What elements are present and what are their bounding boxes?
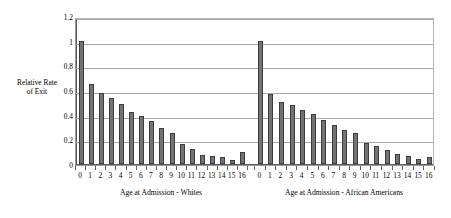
x-axis-tick-label: 2	[98, 170, 102, 181]
bar-slot	[308, 19, 319, 164]
x-axis-tick-label: 5	[310, 170, 314, 181]
bar-series-whites	[76, 19, 248, 164]
bar-slot	[96, 19, 106, 164]
x-axis-tick-label: 4	[300, 170, 304, 181]
bar	[321, 120, 326, 164]
bar-slot	[238, 19, 248, 164]
x-axis-tick-label: 14	[404, 170, 411, 181]
x-axis-tick-label: 10	[361, 170, 368, 181]
y-axis-tick-labels: 00.20.40.60.811.2	[56, 18, 73, 166]
x-axis-tick-labels-whites: 012345678910111213141516	[75, 170, 247, 181]
x-axis-tick-label: 16	[238, 170, 245, 181]
x-axis-tick-label: 11	[372, 170, 379, 181]
y-axis-tick-label: 1.2	[56, 14, 73, 21]
x-axis-tick-label: 7	[149, 170, 153, 181]
bar	[109, 98, 114, 164]
bar-slot	[187, 19, 197, 164]
bar-slot	[403, 19, 414, 164]
x-axis-tick-label: 12	[198, 170, 205, 181]
y-axis-tick-label: 0.8	[56, 64, 73, 71]
bar-slot	[266, 19, 277, 164]
bar	[159, 128, 164, 164]
bar-slot	[414, 19, 425, 164]
bar-slot	[255, 19, 266, 164]
x-axis-tick-label: 3	[289, 170, 293, 181]
bar-slot	[157, 19, 167, 164]
bar	[279, 102, 284, 164]
bar	[364, 143, 369, 164]
bar	[129, 112, 134, 164]
bar	[220, 157, 225, 164]
panel-whites	[76, 19, 248, 164]
bar	[240, 152, 245, 164]
bar	[268, 94, 273, 164]
chart-figure: Relative Rate of Exit 00.20.40.60.811.2 …	[0, 0, 451, 218]
x-axis-tick-label: 11	[188, 170, 195, 181]
bar-slot	[137, 19, 147, 164]
bar-slot	[424, 19, 435, 164]
x-axis-tick-label: 9	[353, 170, 357, 181]
bar-slot	[318, 19, 329, 164]
x-axis-tick-label: 0	[257, 170, 261, 181]
y-axis-tick-label: 0	[56, 162, 73, 169]
bar-series-african-americans	[255, 19, 435, 164]
y-axis-tick-label: 1	[56, 39, 73, 46]
bar-slot	[228, 19, 238, 164]
panel-african-americans	[255, 19, 435, 164]
bar	[406, 156, 411, 164]
bar	[290, 105, 295, 164]
bar-slot	[86, 19, 96, 164]
bar-slot	[167, 19, 177, 164]
x-axis-tick	[247, 166, 248, 170]
x-axis-tick-label: 13	[208, 170, 215, 181]
bar	[200, 155, 205, 164]
bar	[311, 114, 316, 164]
bar	[427, 157, 432, 164]
bar	[353, 133, 358, 164]
bar	[99, 93, 104, 164]
bar-slot	[361, 19, 372, 164]
bar	[332, 125, 337, 164]
bar-slot	[297, 19, 308, 164]
x-axis-tick-label: 6	[321, 170, 325, 181]
x-axis-tick-label: 1	[88, 170, 92, 181]
bar	[170, 133, 175, 164]
plot-area	[75, 18, 434, 166]
x-axis-tick-label: 3	[109, 170, 113, 181]
bar-slot	[76, 19, 86, 164]
x-axis-tick-label: 16	[425, 170, 432, 181]
bar-slot	[382, 19, 393, 164]
y-axis-tick-label: 0.2	[56, 138, 73, 145]
x-axis-tick-label: 12	[383, 170, 390, 181]
bar	[149, 121, 154, 164]
bar-slot	[106, 19, 116, 164]
bar	[210, 156, 215, 164]
bar-slot	[177, 19, 187, 164]
x-axis-tick-label: 0	[78, 170, 82, 181]
x-axis-tick-label: 9	[169, 170, 173, 181]
bar	[190, 149, 195, 164]
bar	[416, 159, 421, 164]
bar-slot	[207, 19, 217, 164]
x-axis-tick-labels-african-americans: 012345678910111213141516	[254, 170, 434, 181]
bar-slot	[287, 19, 298, 164]
x-axis-tick-label: 1	[268, 170, 272, 181]
x-axis-tick-label: 8	[342, 170, 346, 181]
x-axis-tick-label: 14	[218, 170, 225, 181]
x-axis-tick-label: 8	[159, 170, 163, 181]
panel-caption-whites: Age at Admission - Whites	[75, 187, 247, 198]
bar-slot	[197, 19, 207, 164]
bar	[385, 150, 390, 164]
bar-slot	[218, 19, 228, 164]
bar	[89, 84, 94, 164]
panel-caption-african-americans: Age at Admission - African Americans	[254, 187, 434, 198]
y-axis-tick-label: 0.4	[56, 113, 73, 120]
bar-slot	[350, 19, 361, 164]
bar	[342, 130, 347, 164]
bar-slot	[116, 19, 126, 164]
bar	[230, 160, 235, 164]
bar-slot	[371, 19, 382, 164]
bar	[300, 110, 305, 164]
bar	[79, 41, 84, 164]
x-axis-tick-label: 6	[139, 170, 143, 181]
